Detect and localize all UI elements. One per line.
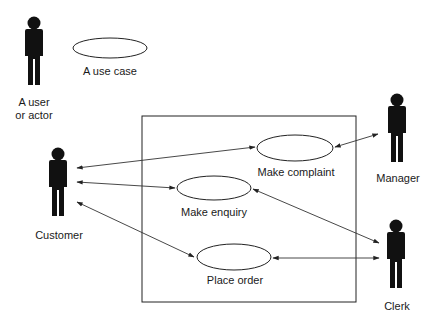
actor-label-clerk: Clerk — [384, 300, 410, 313]
use-case-label-make-enquiry: Make enquiry — [181, 206, 247, 219]
actor-label-manager: Manager — [376, 172, 419, 185]
use-case-label-place-order: Place order — [207, 274, 263, 287]
association-customer-make-enquiry — [77, 182, 175, 188]
use-case-diagram: A user or actor A use case Make complain… — [0, 0, 434, 323]
association-customer-place-order — [77, 202, 194, 257]
legend-use-case-ellipse — [73, 38, 147, 58]
use-case-make-enquiry[interactable] — [177, 176, 251, 200]
legend-actor-label-line2: or actor — [15, 109, 52, 122]
actor-customer-icon[interactable] — [49, 148, 67, 217]
association-clerk-make-enquiry — [253, 189, 379, 243]
use-case-label-make-complaint: Make complaint — [257, 166, 334, 179]
legend-actor-icon — [25, 17, 43, 86]
use-case-place-order[interactable] — [197, 244, 271, 270]
actor-manager-icon[interactable] — [388, 94, 406, 163]
use-case-make-complaint[interactable] — [257, 135, 333, 161]
legend-actor-label-line1: A user — [18, 96, 49, 109]
legend-use-case-label: A use case — [83, 65, 137, 78]
actor-label-customer: Customer — [35, 229, 83, 242]
actor-clerk-icon[interactable] — [387, 220, 405, 289]
association-customer-make-complaint — [77, 147, 255, 168]
